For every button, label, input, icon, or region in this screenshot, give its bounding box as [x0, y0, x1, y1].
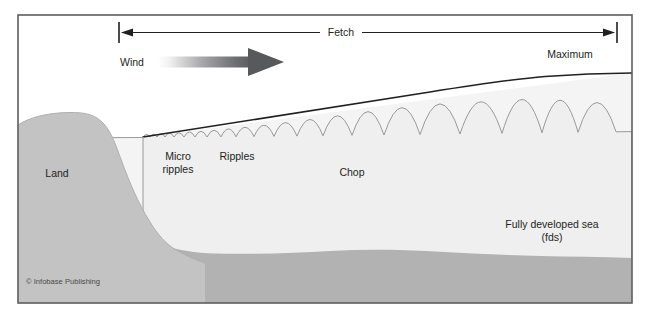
wind-label: Wind — [120, 56, 144, 68]
wave-fetch-diagram: Fetch Wind Maximum Land Micro ripples Ri… — [0, 0, 649, 316]
fetch-label: Fetch — [328, 26, 354, 38]
fds-label-line2: (fds) — [542, 231, 563, 243]
wind-arrow-shaft — [158, 57, 254, 68]
micro-ripples-label-line2: ripples — [163, 163, 194, 175]
maximum-label: Maximum — [547, 48, 593, 60]
micro-ripples-label-line1: Micro — [165, 150, 191, 162]
figure-canvas: Fetch Wind Maximum Land Micro ripples Ri… — [0, 0, 649, 316]
chop-label: Chop — [339, 166, 364, 178]
ripples-label: Ripples — [219, 150, 254, 162]
land-label: Land — [45, 167, 69, 179]
fds-label-line1: Fully developed sea — [505, 218, 599, 230]
publisher-credit: © Infobase Publishing — [26, 277, 100, 286]
